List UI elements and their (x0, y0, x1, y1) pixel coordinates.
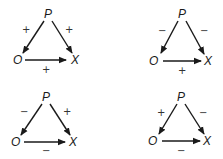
node-o: O (13, 53, 22, 67)
sign-o-x: − (42, 145, 50, 156)
sign-p-x: − (200, 25, 208, 36)
node-x: X (203, 54, 213, 68)
balance-theory-diagrams: P O X + + + P O X − − + P O X − + − P O … (0, 0, 223, 159)
triad-diagram-3: P O X − + − (11, 90, 78, 156)
sign-o-x: − (177, 145, 185, 156)
triad-diagram-4: P O X + − − (148, 90, 212, 156)
node-o: O (149, 54, 158, 68)
node-p: P (42, 90, 50, 104)
sign-p-o: − (158, 25, 166, 36)
node-o: O (11, 135, 20, 149)
node-o: O (148, 134, 157, 148)
sign-p-o: + (22, 24, 30, 35)
node-x: X (68, 135, 78, 149)
node-x: X (70, 53, 80, 67)
sign-p-o: − (20, 106, 28, 117)
sign-p-x: − (199, 107, 207, 118)
sign-p-x: + (65, 24, 73, 35)
node-x: X (202, 134, 212, 148)
sign-o-x: + (178, 65, 186, 76)
triad-diagram-2: P O X − − + (149, 7, 213, 76)
sign-p-x: + (63, 106, 71, 117)
sign-p-o: + (157, 107, 165, 118)
node-p: P (178, 7, 186, 21)
sign-o-x: + (42, 64, 50, 75)
node-p: P (177, 90, 185, 104)
node-p: P (44, 7, 52, 21)
triad-diagram-1: P O X + + + (13, 7, 80, 75)
